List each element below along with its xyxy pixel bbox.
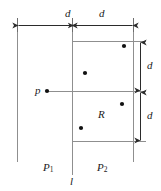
point-upper-left [83,71,87,75]
label-plane-p1-base: P [43,161,50,173]
label-plane-p1-subscript: 1 [50,165,54,174]
point-bottom-left [79,126,83,130]
label-point-p: p [35,85,41,96]
label-region-r: R [98,109,105,120]
label-line-l: l [70,176,73,187]
label-plane-p2: P2 [97,162,107,174]
label-dim-right-lower: d [147,110,153,121]
point-group [45,44,126,130]
label-dim-right-upper: d [147,60,153,71]
label-plane-p2-base: P [97,161,104,173]
label-plane-p2-subscript: 2 [104,165,108,174]
point-top-right [122,44,126,48]
label-dim-top-left: d [65,8,71,19]
figure-canvas [0,0,161,191]
point-p [45,89,49,93]
label-plane-p1: P1 [43,162,53,174]
point-lower-right [120,102,124,106]
label-dim-top-right: d [99,8,105,19]
geometry-figure: d d d d p R P1 P2 l [0,0,161,191]
